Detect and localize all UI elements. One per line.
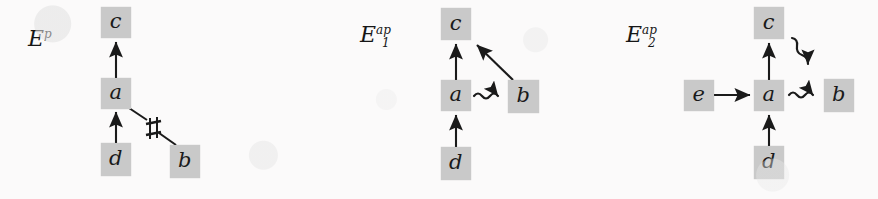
script-e-glyph: E xyxy=(626,22,642,47)
node-label: d xyxy=(449,152,463,173)
node-label: c xyxy=(450,13,462,34)
node-label: a xyxy=(109,82,122,103)
node-a[interactable]: a xyxy=(441,80,471,111)
node-label: d xyxy=(762,151,776,172)
node-label: b xyxy=(178,150,192,171)
panel-label-subscript: 1 xyxy=(382,36,390,50)
panel-label-superscript: ap xyxy=(376,23,391,37)
node-c[interactable]: c xyxy=(441,8,471,40)
node-d[interactable]: d xyxy=(754,146,784,179)
panel-label-superscript: p xyxy=(44,27,52,41)
node-label: e xyxy=(693,84,706,105)
node-label: c xyxy=(763,12,775,33)
script-e-glyph: E xyxy=(360,22,376,47)
panel-label-e1ap: Eap1 xyxy=(360,24,391,46)
figure-canvas: Ep c a d b Eap1 c a d b xyxy=(0,0,878,199)
node-c[interactable]: c xyxy=(754,7,784,39)
node-label: a xyxy=(449,84,462,105)
panel-label-subscript: 2 xyxy=(648,36,656,50)
node-c[interactable]: c xyxy=(101,7,131,38)
node-b[interactable]: b xyxy=(170,145,200,178)
panel-e2ap: Eap2 c e a b d xyxy=(580,0,878,199)
panel-label-superscript: ap xyxy=(642,23,657,37)
node-label: b xyxy=(832,84,846,105)
node-a[interactable]: a xyxy=(754,80,784,111)
script-e-glyph: E xyxy=(28,26,44,51)
node-b[interactable]: b xyxy=(508,80,539,113)
panel-label-ep: Ep xyxy=(28,28,52,50)
node-label: c xyxy=(110,11,122,32)
node-label: d xyxy=(109,148,123,169)
node-d[interactable]: d xyxy=(101,143,131,176)
node-label: a xyxy=(762,84,775,105)
node-a[interactable]: a xyxy=(101,78,131,109)
panel-ep: Ep c a d b xyxy=(0,0,300,199)
node-d[interactable]: d xyxy=(441,147,471,180)
node-b[interactable]: b xyxy=(824,79,854,112)
node-e[interactable]: e xyxy=(684,80,714,111)
panel-e1ap: Eap1 c a d b xyxy=(300,0,580,199)
node-label: b xyxy=(517,85,531,106)
panel-label-e2ap: Eap2 xyxy=(626,24,657,46)
